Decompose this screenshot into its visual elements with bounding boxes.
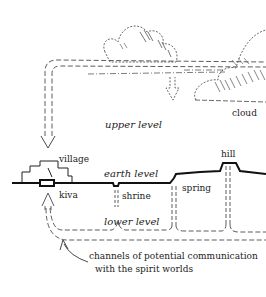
caption-pointer-arrow-icon (60, 240, 88, 262)
hill-label: hill (221, 149, 235, 159)
down-arrow-to-village-icon (41, 136, 55, 148)
caption-line-1: channels of potential communication (89, 251, 258, 261)
cloud-right-icon (195, 30, 266, 102)
spring-label: spring (182, 183, 211, 193)
cloud-label: cloud (232, 108, 257, 118)
lower-level-label: lower level (104, 217, 160, 227)
upper-level-label: upper level (105, 120, 162, 130)
shrine-label: shrine (122, 191, 151, 201)
rain-arrow-icon (166, 77, 179, 100)
earth-level-label: earth level (104, 169, 158, 179)
spring-channel-lines (172, 166, 230, 228)
cloud-left-icon (104, 26, 177, 62)
caption-line-2: with the spirit worlds (95, 264, 193, 274)
kiva-label: kiva (59, 190, 78, 200)
upper-dashdot-lines (88, 70, 225, 74)
village-label: village (59, 154, 89, 164)
shrine-channel-lines (115, 190, 118, 207)
kiva-icon (40, 180, 54, 186)
up-arrow-to-kiva-icon (42, 193, 54, 210)
village-icon (22, 161, 72, 182)
